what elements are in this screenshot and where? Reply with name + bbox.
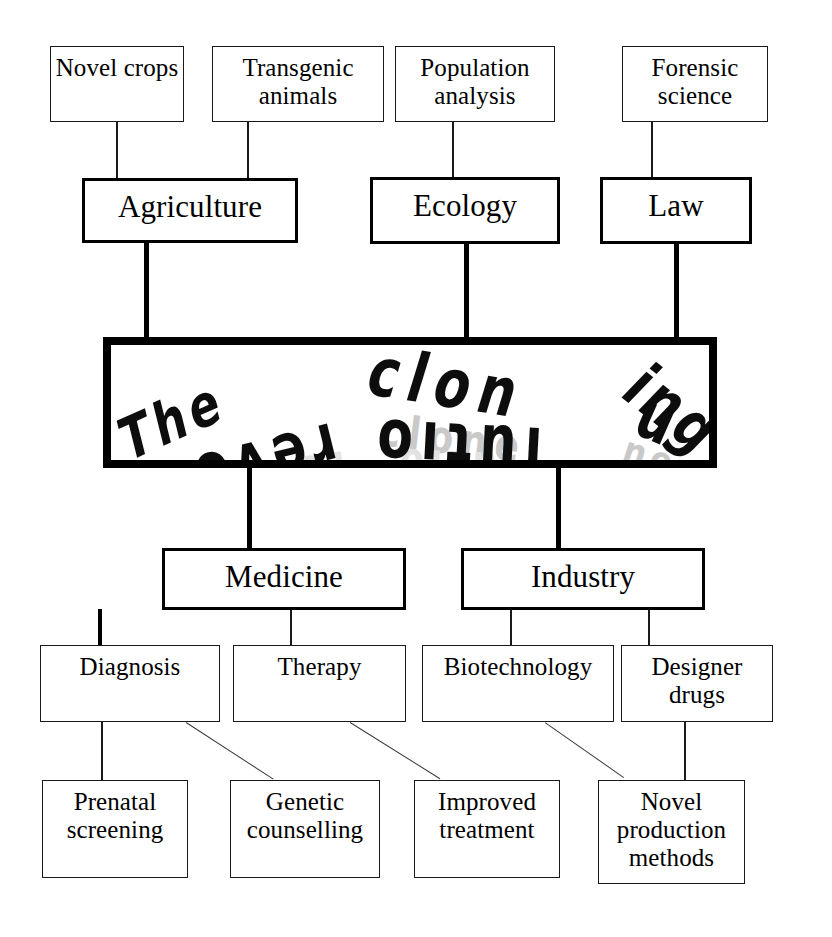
- node-diagnosis[interactable]: Diagnosis: [40, 645, 220, 722]
- node-law[interactable]: Law: [600, 177, 752, 244]
- connector-novel-crops-agriculture: [116, 122, 118, 180]
- diagram-canvas: Novel crops Transgenic animals Populatio…: [0, 0, 832, 937]
- node-genetic-counselling[interactable]: Genetic counselling: [230, 780, 380, 878]
- node-label: Ecology: [373, 180, 557, 224]
- node-forensic-science[interactable]: Forensic science: [622, 46, 768, 122]
- connector-diagnosis-genetic-counselling: [186, 722, 274, 780]
- node-label: Therapy: [234, 646, 405, 681]
- connector-center-medicine: [247, 464, 252, 550]
- node-prenatal-screening[interactable]: Prenatal screening: [42, 780, 188, 878]
- center-text-lutio: lutio: [367, 409, 544, 460]
- node-label: Novel production methods: [599, 781, 744, 872]
- node-transgenic-animals[interactable]: Transgenic animals: [212, 46, 384, 122]
- node-label: Agriculture: [85, 181, 295, 225]
- node-label: Medicine: [165, 551, 403, 595]
- node-industry[interactable]: Industry: [461, 548, 705, 610]
- connector-medicine-diagnosis: [98, 609, 102, 647]
- node-label: Law: [603, 180, 749, 224]
- node-population-analysis[interactable]: Population analysis: [395, 46, 555, 122]
- node-label: Prenatal screening: [43, 781, 187, 844]
- node-label: Novel crops: [51, 47, 183, 82]
- connector-forensic-science-law: [651, 122, 653, 178]
- connector-industry-biotechnology: [510, 609, 512, 647]
- node-label: Population analysis: [396, 47, 554, 110]
- connector-ecology-center: [464, 243, 469, 341]
- node-ecology[interactable]: Ecology: [370, 177, 560, 244]
- node-label: Designer drugs: [622, 646, 772, 709]
- node-improved-treatment[interactable]: Improved treatment: [414, 780, 560, 878]
- connector-population-analysis-ecology: [452, 122, 454, 178]
- node-agriculture[interactable]: Agriculture: [82, 178, 298, 243]
- node-label: Biotechnology: [423, 646, 613, 681]
- node-therapy[interactable]: Therapy: [233, 645, 406, 722]
- connector-medicine-therapy: [290, 609, 292, 647]
- connector-therapy-improved-treatment: [350, 722, 441, 779]
- connector-industry-designer-drugs: [648, 609, 650, 647]
- connector-law-center: [674, 243, 679, 341]
- node-novel-crops[interactable]: Novel crops: [50, 46, 184, 122]
- node-label: Industry: [464, 551, 702, 595]
- node-label: Improved treatment: [415, 781, 559, 844]
- node-designer-drugs[interactable]: Designer drugs: [621, 645, 773, 722]
- node-novel-production-methods[interactable]: Novel production methods: [598, 780, 745, 884]
- center-node-cloning-revolution[interactable]: clo clone revo lutio ne The clon ing rev…: [103, 337, 717, 468]
- connector-center-industry: [556, 464, 561, 550]
- node-biotechnology[interactable]: Biotechnology: [422, 645, 614, 722]
- connector-transgenic-animals-agriculture: [247, 122, 249, 180]
- node-label: Diagnosis: [41, 646, 219, 681]
- center-node-artwork: clo clone revo lutio ne The clon ing rev…: [111, 345, 709, 460]
- connector-diagnosis-prenatal-screening: [101, 722, 103, 780]
- connector-agriculture-center: [144, 241, 149, 341]
- connector-biotechnology-novel-production-methods: [545, 722, 624, 778]
- node-label: Genetic counselling: [231, 781, 379, 844]
- connector-designer-drugs-novel-production-methods: [684, 722, 686, 780]
- node-label: Transgenic animals: [213, 47, 383, 110]
- node-medicine[interactable]: Medicine: [162, 548, 406, 610]
- node-label: Forensic science: [623, 47, 767, 110]
